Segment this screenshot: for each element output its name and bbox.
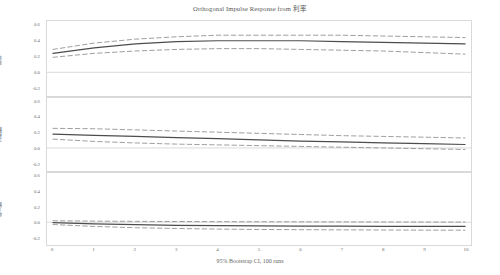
x-tick-label: 2	[127, 247, 143, 252]
x-tick-label: 8	[375, 247, 391, 252]
y-tick-label: 0.4	[14, 114, 40, 119]
y-axis-label-0: 利率	[0, 40, 12, 80]
y-tick-label: 0.6	[14, 99, 40, 104]
irf-panel-1	[46, 97, 472, 172]
y-tick-label: 0.0	[14, 146, 40, 151]
y-axis-label-1: 消费额	[0, 115, 12, 155]
x-tick-label: 7	[334, 247, 350, 252]
y-tick-label: 0.2	[14, 130, 40, 135]
x-tick-label: 5	[251, 247, 267, 252]
y-axis-label-2: 收入额	[0, 190, 12, 230]
y-tick-label: -0.2	[14, 236, 40, 241]
x-tick-label: 0	[44, 247, 60, 252]
y-tick-label: 0.2	[14, 54, 40, 59]
y-tick-label: 0.0	[14, 70, 40, 75]
x-tick-label: 9	[417, 247, 433, 252]
x-tick-label: 3	[168, 247, 184, 252]
y-tick-label: 0.4	[14, 38, 40, 43]
y-tick-label: 0.0	[14, 220, 40, 225]
irf-plot-2	[47, 173, 471, 245]
x-tick-layer: 012345678910	[0, 247, 500, 257]
irf-plot-1	[47, 98, 471, 171]
series-upper_ci	[53, 128, 465, 138]
y-tick-label: -0.2	[14, 162, 40, 167]
x-tick-label: 10	[458, 247, 474, 252]
irf-panel-0	[46, 20, 472, 97]
series-response	[53, 223, 465, 227]
y-tick-label: 0.6	[14, 173, 40, 178]
y-tick-label: 0.6	[14, 22, 40, 27]
x-tick-label: 1	[85, 247, 101, 252]
irf-panel-2	[46, 172, 472, 246]
y-tick-label: 0.2	[14, 205, 40, 210]
x-tick-label: 6	[292, 247, 308, 252]
series-lower_ci	[53, 49, 465, 58]
impulse-response-figure: Orthogonal Impulse Response from 利率 0.60…	[0, 0, 500, 275]
chart-caption: 95% Bootstrap CI, 100 runs	[0, 258, 500, 264]
irf-plot-0	[47, 21, 471, 96]
series-response	[53, 134, 465, 144]
x-tick-label: 4	[210, 247, 226, 252]
y-tick-label: -0.2	[14, 86, 40, 91]
y-tick-label: 0.4	[14, 189, 40, 194]
